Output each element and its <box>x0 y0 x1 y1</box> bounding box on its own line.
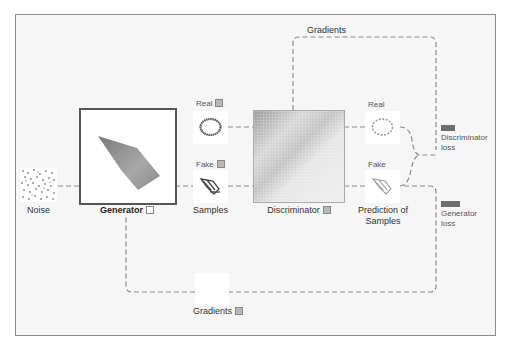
discriminator-label-row: Discriminator <box>253 205 345 215</box>
fake-input-checkbox[interactable] <box>217 160 225 168</box>
fake-samples-image <box>193 170 228 203</box>
top-gradients-label: Gradients <box>307 25 346 35</box>
real-input-label-row: Real <box>196 99 223 108</box>
ring-distribution-icon <box>193 111 228 144</box>
prediction-label-line1: Prediction of <box>352 205 414 216</box>
real-samples-image <box>193 111 228 144</box>
generator-loss-line1: Generator <box>441 209 477 219</box>
prediction-ring-icon <box>365 111 400 144</box>
noise-image <box>20 168 57 202</box>
generator-loss-label: Generator loss <box>441 209 477 229</box>
fake-scatter-icon <box>193 170 228 203</box>
noise-scatter-icon <box>20 168 57 202</box>
bottom-gradients-label: Gradients <box>193 306 232 316</box>
samples-label: Samples <box>188 205 233 215</box>
generator-label-row: Generator <box>79 205 175 215</box>
generator-loss-line2: loss <box>441 219 477 229</box>
bottom-gradients-checkbox[interactable] <box>235 307 243 315</box>
bottom-gradients-label-row: Gradients <box>193 306 243 316</box>
discriminator-heatmap[interactable] <box>253 110 345 203</box>
discriminator-loss-line1: Discriminator <box>441 133 488 143</box>
prediction-label-line2: Samples <box>352 216 414 227</box>
discriminator-loss-label: Discriminator loss <box>441 133 488 153</box>
prediction-real-image <box>365 111 400 144</box>
prediction-scatter-icon <box>365 170 400 203</box>
generator-box[interactable] <box>79 108 177 205</box>
fake-input-label-row: Fake <box>196 160 225 169</box>
generator-loss-bar <box>441 201 460 207</box>
discriminator-loss-line2: loss <box>441 143 488 153</box>
bottom-gradients-image <box>195 273 229 306</box>
fake-input-label: Fake <box>196 160 214 169</box>
prediction-label: Prediction of Samples <box>352 205 414 227</box>
generator-label: Generator <box>100 205 143 215</box>
prediction-fake-label: Fake <box>368 160 386 169</box>
discriminator-checkbox[interactable] <box>323 206 331 214</box>
prediction-fake-image <box>365 170 400 203</box>
real-input-checkbox[interactable] <box>215 99 223 107</box>
discriminator-label: Discriminator <box>267 205 320 215</box>
generator-manifold-icon <box>81 110 175 203</box>
noise-label: Noise <box>20 205 57 215</box>
real-input-label: Real <box>196 99 212 108</box>
prediction-real-label: Real <box>368 100 384 109</box>
generator-checkbox[interactable] <box>146 206 154 214</box>
discriminator-loss-bar <box>441 125 455 131</box>
